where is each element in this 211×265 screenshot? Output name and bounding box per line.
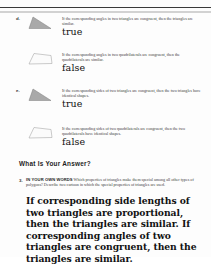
top-rule-dark — [0, 7, 211, 8]
problem-answer: true — [62, 98, 83, 109]
top-rule-gray — [0, 11, 211, 14]
problem-answer: false — [62, 62, 85, 73]
outline-quadrilateral-icon — [27, 51, 57, 67]
problem-statement: If the corresponding sides of two quadri… — [62, 126, 203, 137]
shaded-right-triangle-icon — [27, 87, 57, 103]
shaded-right-triangle-icon — [27, 15, 57, 31]
problem-letter: d. — [16, 16, 20, 21]
problem-letter: e. — [16, 88, 20, 93]
question-number: 3. — [19, 178, 23, 183]
problem-answer: true — [62, 26, 83, 37]
problem-statement: If the corresponding sides of two triang… — [62, 88, 203, 99]
question-text: IN YOUR OWN WORDS Which properties of tr… — [26, 177, 205, 187]
section-heading: What Is Your Answer? — [19, 160, 91, 167]
problem-statement: If the corresponding angles in two trian… — [62, 16, 203, 27]
problem-answer: false — [62, 136, 85, 147]
outline-quadrilateral-icon — [27, 125, 57, 141]
handwritten-answer: If corresponding side lengths of two tri… — [26, 195, 207, 265]
problem-statement: If the corresponding angles in two quadr… — [62, 52, 203, 63]
